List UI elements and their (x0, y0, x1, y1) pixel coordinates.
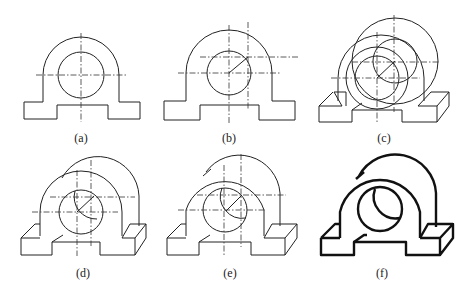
panel-f-drawing (321, 154, 453, 255)
diagram-canvas (0, 0, 470, 297)
panel-a-drawing (24, 33, 140, 122)
panel-a-label: (a) (74, 131, 87, 146)
panel-d-label: (d) (76, 266, 90, 281)
panel-b-drawing (164, 22, 298, 123)
panel-c-label: (c) (377, 131, 390, 146)
panel-b-label: (b) (222, 131, 236, 146)
panel-f-label: (f) (376, 266, 388, 281)
panel-e-label: (e) (223, 266, 236, 281)
panel-e-drawing (167, 154, 297, 256)
panel-c-drawing (319, 15, 449, 122)
panel-d-drawing (21, 157, 146, 256)
